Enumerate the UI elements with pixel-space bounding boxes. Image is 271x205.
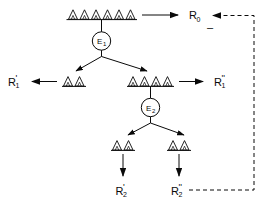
label-r1-prime: R 1 ' bbox=[8, 73, 20, 89]
triangle-icon bbox=[163, 77, 172, 86]
label-r2-prime: R 2 ' bbox=[116, 182, 128, 198]
triangle-icon bbox=[129, 77, 138, 86]
triangle-icon bbox=[152, 77, 161, 86]
triangle-icon bbox=[124, 141, 133, 150]
label-r2-prime-sub: 2 bbox=[123, 191, 127, 198]
node-e1: E 1 bbox=[92, 32, 110, 50]
node-e2-label: E bbox=[146, 104, 151, 113]
root-triangle-group bbox=[67, 10, 138, 20]
right-triangle-group bbox=[127, 77, 174, 87]
label-r0-sub: 0 bbox=[197, 16, 201, 23]
left-triangle-group bbox=[62, 77, 86, 87]
bottom-right-triangle-group bbox=[167, 141, 191, 151]
triangle-icon bbox=[140, 77, 149, 86]
diagram-svg: R 0 – E 1 bbox=[0, 0, 271, 205]
triangle-icon bbox=[180, 141, 189, 150]
label-r2-dprime-mark: '' bbox=[179, 182, 183, 192]
node-e1-label: E bbox=[97, 37, 102, 46]
label-r1-prime-sub: 1 bbox=[16, 82, 20, 89]
label-r0: R 0 bbox=[189, 9, 201, 23]
triangle-icon bbox=[75, 77, 84, 86]
triangle-icon bbox=[64, 77, 73, 86]
label-r1-prime-mark: ' bbox=[16, 73, 18, 83]
triangle-icon bbox=[92, 10, 101, 19]
node-e2: E 2 bbox=[141, 98, 159, 116]
branch-e2-left bbox=[128, 123, 151, 135]
bottom-left-triangle-group bbox=[111, 141, 135, 151]
label-r2-dprime-sub: 2 bbox=[179, 191, 183, 198]
label-r2-double-prime: R 2 '' bbox=[171, 182, 183, 198]
triangle-icon bbox=[103, 10, 112, 19]
label-r2-prime-mark: ' bbox=[123, 182, 125, 192]
label-r1-dprime-mark: '' bbox=[222, 73, 226, 83]
branch-e1-left bbox=[76, 57, 102, 72]
feedback-sign-label: – bbox=[207, 21, 214, 33]
diagram-canvas: R 0 – E 1 bbox=[0, 0, 271, 205]
label-r1-dprime-sub: 1 bbox=[222, 82, 226, 89]
triangle-icon bbox=[115, 10, 124, 19]
label-r1-double-prime: R 1 '' bbox=[214, 73, 226, 89]
branch-e2-right bbox=[151, 123, 185, 135]
feedback-path bbox=[189, 16, 254, 191]
triangle-icon bbox=[169, 141, 178, 150]
triangle-icon bbox=[80, 10, 89, 19]
branch-e1-right bbox=[102, 57, 148, 72]
triangle-icon bbox=[69, 10, 78, 19]
triangle-icon bbox=[126, 10, 135, 19]
triangle-icon bbox=[113, 141, 122, 150]
